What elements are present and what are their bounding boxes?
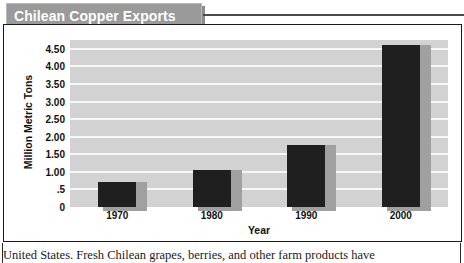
bar-chart: Million Metric Tons 0.51.001.502.002.503… <box>0 24 464 242</box>
page-title: Chilean Copper Exports <box>7 8 176 24</box>
y-tick-label: 2.00 <box>46 131 65 142</box>
x-tick-label: 2000 <box>390 210 412 221</box>
y-tick-label: 1.50 <box>46 149 65 160</box>
plot-area <box>70 40 448 207</box>
x-tick-label: 1980 <box>201 210 223 221</box>
y-tick-label: 3.50 <box>46 78 65 89</box>
bar-1980[interactable] <box>193 170 231 207</box>
x-axis-title: Year <box>70 224 448 236</box>
y-tick-label: 4.50 <box>46 43 65 54</box>
y-axis-tick-labels: 0.51.001.502.002.503.003.504.004.50 <box>33 40 65 207</box>
y-tick-label: 0 <box>59 202 65 213</box>
body-paragraph: United States. Fresh Chilean grapes, ber… <box>3 248 461 263</box>
bar-2000[interactable] <box>382 45 420 207</box>
y-tick-label: 3.00 <box>46 96 65 107</box>
y-tick-label: 2.50 <box>46 114 65 125</box>
y-tick-label: .5 <box>57 184 65 195</box>
title-horizontal-rule <box>203 14 464 16</box>
x-tick-label: 1990 <box>295 210 317 221</box>
bar-1990[interactable] <box>287 145 325 207</box>
bar-1970[interactable] <box>98 182 136 207</box>
y-tick-label: 1.00 <box>46 166 65 177</box>
figure-page: Chilean Copper Exports Million Metric To… <box>0 0 464 263</box>
x-tick-label: 1970 <box>106 210 128 221</box>
y-tick-label: 4.00 <box>46 61 65 72</box>
